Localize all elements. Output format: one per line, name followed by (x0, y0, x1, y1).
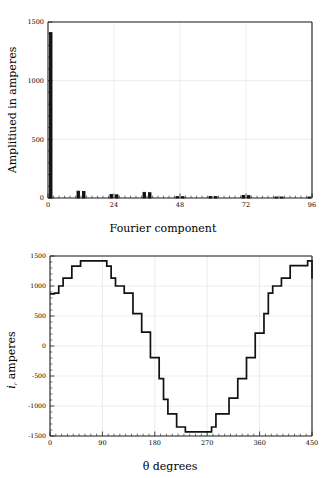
fourier-spectrum-panel: 050010001500024487296 Fourier component … (0, 0, 326, 240)
y-tick-label: -1500 (28, 432, 46, 439)
y-tick-label: 1500 (30, 252, 46, 259)
y-tick-label: -1000 (28, 402, 46, 409)
fourier-spectrum-chart: 050010001500024487296 Fourier component … (0, 0, 326, 240)
x-tick-label: 0 (46, 201, 50, 209)
y-tick-label: -500 (32, 372, 46, 379)
waveform-gridlines (50, 256, 312, 436)
x-tick-label: 48 (176, 201, 184, 209)
fourier-tick-labels: 050010001500024487296 (27, 18, 316, 209)
x-tick-label: 24 (110, 201, 118, 209)
waveform-xaxis-label: θ degrees (143, 460, 198, 473)
x-tick-label: 270 (201, 439, 213, 447)
fourier-xaxis-label: Fourier component (110, 222, 217, 235)
waveform-ylabel-text: amperes (5, 331, 18, 383)
x-tick-label: 450 (306, 439, 318, 447)
svg-text:ir amperes: ir amperes (5, 331, 18, 389)
y-tick-label: 500 (34, 312, 46, 319)
x-tick-label: 0 (48, 439, 52, 447)
x-tick-label: 90 (98, 439, 106, 447)
x-tick-label: 180 (149, 439, 161, 447)
waveform-tick-labels: -1500-1000-50005001000150009018027036045… (28, 252, 318, 447)
y-tick-label: 500 (32, 136, 44, 144)
x-tick-label: 72 (242, 201, 250, 209)
y-tick-label: 1000 (30, 282, 46, 289)
y-tick-label: 0 (40, 194, 44, 202)
fourier-bar (143, 192, 145, 198)
fourier-bar (83, 191, 85, 198)
fourier-yaxis-label: Amplitiued in amperes (6, 46, 19, 174)
figure-container: 050010001500024487296 Fourier component … (0, 0, 326, 478)
x-tick-label: 360 (253, 439, 265, 447)
fourier-bar (77, 191, 79, 198)
stepped-waveform-panel: -1500-1000-50005001000150009018027036045… (0, 240, 326, 478)
y-tick-label: 1000 (27, 77, 44, 85)
waveform-yaxis-label: ir amperes (5, 331, 18, 389)
x-tick-label: 96 (308, 201, 316, 209)
y-tick-label: 1500 (27, 18, 44, 26)
y-tick-label: 0 (42, 342, 46, 349)
fourier-gridlines (48, 22, 312, 198)
stepped-waveform-chart: -1500-1000-50005001000150009018027036045… (0, 240, 326, 478)
fourier-bar (149, 193, 151, 198)
